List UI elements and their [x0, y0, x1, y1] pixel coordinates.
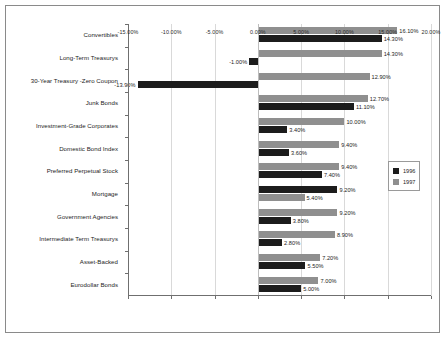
bar-value-label: 7.20% [322, 255, 338, 261]
zero-baseline [258, 24, 259, 296]
category-label: Eurodollar Bonds [6, 281, 118, 288]
bar-value-label: 16.10% [399, 28, 418, 34]
category-label: Domestic Bond Index [6, 145, 118, 152]
gridline-10.00% [344, 24, 345, 296]
category-label: Investment-Grade Corporates [6, 122, 118, 129]
chart-legend: 1996 1997 [388, 161, 420, 191]
bar-1997 [258, 73, 370, 80]
gridline-15.00% [388, 24, 389, 296]
x-tick-mark [301, 296, 302, 299]
category-label: 30-Year Treasury -Zero Coupon [6, 77, 118, 84]
legend-swatch-1996 [393, 168, 399, 174]
bar-value-label: 5.50% [307, 263, 323, 269]
bar-value-label: 9.40% [341, 164, 357, 170]
bar-1996 [249, 58, 258, 65]
bar-1996 [258, 103, 354, 110]
x-tick-label: -15.00% [118, 29, 139, 35]
bar-1996 [258, 35, 382, 42]
x-tick-mark [431, 296, 432, 299]
x-tick-mark [258, 296, 259, 299]
legend-entry-1996: 1996 [393, 165, 415, 176]
bar-1997 [258, 27, 397, 34]
bar-value-label: 2.80% [284, 240, 300, 246]
bar-1996 [258, 239, 282, 246]
bar-1997 [258, 209, 338, 216]
gridline-20.00% [431, 24, 432, 296]
bar-value-label: 3.80% [293, 218, 309, 224]
bar-1997 [258, 118, 345, 125]
bar-value-label: 8.90% [337, 232, 353, 238]
bar-1996 [258, 262, 306, 269]
bar-value-label: 5.40% [307, 195, 323, 201]
x-tick-mark [171, 296, 172, 299]
bar-1997 [258, 163, 339, 170]
legend-swatch-1997 [393, 179, 399, 185]
category-label: Intermediate Term Treasurys [6, 235, 118, 242]
bar-value-label: 12.70% [370, 96, 389, 102]
bar-value-label: 14.30% [384, 36, 403, 42]
bar-value-label: 9.20% [340, 187, 356, 193]
x-tick-label: 10.00% [335, 29, 354, 35]
bar-1996 [258, 217, 291, 224]
category-label: Asset-Backed [6, 258, 118, 265]
bar-value-label: 3.60% [291, 150, 307, 156]
bar-1996 [258, 285, 301, 292]
y-axis-line [128, 24, 129, 296]
bar-1996 [258, 186, 338, 193]
x-tick-label: 20.00% [422, 29, 441, 35]
bar-value-label: 7.40% [324, 172, 340, 178]
x-tick-mark [128, 296, 129, 299]
bar-value-label: 11.10% [356, 104, 375, 110]
category-label: Long-Term Treasurys [6, 54, 118, 61]
bar-value-label: 7.00% [320, 278, 336, 284]
bar-1997 [258, 277, 319, 284]
category-label: Preferred Perpetual Stock [6, 167, 118, 174]
bar-1997 [258, 254, 320, 261]
bar-value-label: 14.30% [384, 51, 403, 57]
x-tick-mark [215, 296, 216, 299]
x-axis-line [128, 295, 431, 296]
bar-1996 [258, 149, 289, 156]
bar-1996 [258, 126, 287, 133]
chart-screenshot: 16.10%14.30%14.30%-1.00%12.90%-13.90%12.… [0, 0, 447, 341]
bar-1997 [258, 95, 368, 102]
bar-value-label: 9.20% [340, 210, 356, 216]
bar-value-label: 5.00% [303, 286, 319, 292]
x-tick-label: -5.00% [206, 29, 224, 35]
x-tick-mark [388, 296, 389, 299]
bar-value-label: 10.00% [346, 119, 365, 125]
x-tick-label: 0.00% [250, 29, 266, 35]
legend-label-1997: 1997 [403, 179, 415, 185]
x-tick-label: 5.00% [293, 29, 309, 35]
category-label: Government Agencies [6, 213, 118, 220]
bar-1997 [258, 231, 335, 238]
bar-value-label: 9.40% [341, 142, 357, 148]
x-tick-label: 15.00% [378, 29, 397, 35]
bar-1997 [258, 50, 382, 57]
bar-1997 [258, 194, 305, 201]
category-label: Junk Bonds [6, 99, 118, 106]
x-tick-label: -10.00% [161, 29, 182, 35]
legend-label-1996: 1996 [403, 168, 415, 174]
bar-value-label: 3.40% [289, 127, 305, 133]
chart-frame: 16.10%14.30%14.30%-1.00%12.90%-13.90%12.… [5, 5, 440, 333]
bar-1996 [138, 81, 258, 88]
category-label: Convertibles [6, 31, 118, 38]
plot-area: 16.10%14.30%14.30%-1.00%12.90%-13.90%12.… [128, 24, 431, 296]
x-tick-mark [344, 296, 345, 299]
bar-1997 [258, 141, 339, 148]
bar-1996 [258, 171, 322, 178]
gridline--10.00% [171, 24, 172, 296]
category-label: Mortgage [6, 190, 118, 197]
gridline--5.00% [215, 24, 216, 296]
bar-value-label: -1.00% [229, 59, 247, 65]
bar-value-label: 12.90% [372, 74, 391, 80]
legend-entry-1997: 1997 [393, 176, 415, 187]
